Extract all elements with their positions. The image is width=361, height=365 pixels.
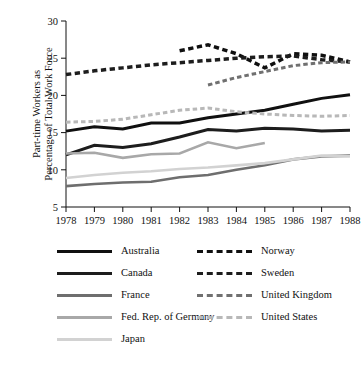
svg-text:25: 25 [48,53,59,64]
svg-text:5: 5 [53,202,58,213]
svg-text:20: 20 [48,90,59,101]
legend-item-united-states[interactable]: United States [197,306,332,328]
svg-text:10: 10 [48,165,59,176]
svg-text:1981: 1981 [141,215,162,226]
plot-area: Part-time Workers asPercentage of Total … [0,0,361,238]
series-line-france [66,156,350,187]
legend-swatch-icon [57,272,112,275]
legend-swatch-icon [57,338,112,341]
legend-swatch-icon [57,316,112,319]
svg-text:1980: 1980 [112,215,133,226]
legend-item-label: United Kingdom [261,290,332,301]
chart-legend: AustraliaCanadaFranceFed. Rep. of German… [0,240,361,365]
svg-text:Part-time Workers as: Part-time Workers as [31,70,42,158]
legend-item-label: Japan [121,334,145,345]
legend-item-label: United States [261,312,317,323]
series-line-united-states [66,108,350,122]
svg-text:1982: 1982 [169,215,190,226]
legend-item-fed-rep-of-germany[interactable]: Fed. Rep. of Germany [57,306,215,328]
legend-item-japan[interactable]: Japan [57,328,215,350]
legend-swatch-icon [197,294,252,297]
legend-swatch-icon [57,294,112,297]
legend-item-australia[interactable]: Australia [57,240,215,262]
legend-column-right: NorwaySwedenUnited KingdomUnited States [197,240,332,328]
legend-item-canada[interactable]: Canada [57,262,215,284]
svg-text:1986: 1986 [283,215,304,226]
legend-swatch-icon [197,316,252,319]
legend-item-label: Sweden [261,268,294,279]
svg-text:1983: 1983 [198,215,219,226]
legend-item-label: Canada [121,268,153,279]
legend-column-left: AustraliaCanadaFranceFed. Rep. of German… [57,240,215,350]
legend-swatch-icon [197,250,252,253]
svg-text:30: 30 [48,16,59,27]
svg-text:1984: 1984 [226,215,248,226]
series-line-united-kingdom [208,62,350,85]
legend-item-sweden[interactable]: Sweden [197,262,332,284]
line-chart-figure: Part-time Workers asPercentage of Total … [0,0,361,365]
svg-text:1985: 1985 [254,215,275,226]
svg-text:1987: 1987 [311,215,332,226]
x-axis-ticks: 1978197919801981198219831984198519861987… [56,207,361,226]
svg-text:1978: 1978 [56,215,77,226]
legend-item-norway[interactable]: Norway [197,240,332,262]
svg-text:1988: 1988 [340,215,361,226]
series-lines [66,45,350,186]
svg-text:15: 15 [48,127,59,138]
legend-item-united-kingdom[interactable]: United Kingdom [197,284,332,306]
y-axis-title: Part-time Workers asPercentage of Total … [31,47,54,181]
legend-item-label: Norway [261,246,295,257]
svg-text:Percentage of Total Work Force: Percentage of Total Work Force [43,47,54,181]
legend-swatch-icon [197,272,252,275]
series-line-norway [180,45,350,68]
svg-text:1979: 1979 [84,215,105,226]
axis-lines [66,21,350,207]
series-line-australia [66,95,350,131]
legend-swatch-icon [57,250,112,253]
legend-item-label: France [121,290,150,301]
legend-item-france[interactable]: France [57,284,215,306]
chart-canvas: Part-time Workers asPercentage of Total … [0,0,361,238]
legend-item-label: Australia [121,246,160,257]
